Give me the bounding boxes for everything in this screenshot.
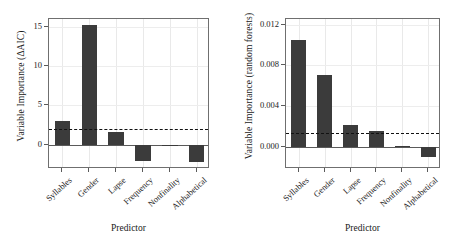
x-tick-mark — [375, 168, 376, 172]
x-tick-mark — [169, 168, 170, 172]
x-axis-title-left: Predictor — [48, 223, 209, 233]
bar-gender — [82, 25, 98, 145]
bar-lapse — [343, 125, 358, 146]
panel-right-random-forests: Variable Importance (random forests) 0.0… — [228, 0, 456, 245]
y-tick-mark — [44, 65, 48, 66]
y-tick-label: 15 — [28, 21, 42, 31]
y-tick-mark — [44, 144, 48, 145]
x-tick-mark — [324, 168, 325, 172]
gridline-vertical — [428, 19, 429, 167]
y-tick-label: 0.004 — [251, 100, 279, 110]
y-tick-mark — [281, 64, 285, 65]
y-tick-mark — [44, 26, 48, 27]
y-tick-label: 5 — [28, 99, 42, 109]
x-tick-mark — [401, 168, 402, 172]
bar-syllables — [55, 121, 71, 145]
threshold-line — [286, 133, 439, 134]
y-tick-mark — [281, 24, 285, 25]
gridline-horizontal — [49, 105, 208, 106]
x-tick-mark — [115, 168, 116, 172]
x-tick-mark — [427, 168, 428, 172]
zero-baseline — [286, 147, 439, 148]
bar-alphabetical — [189, 145, 205, 162]
bar-frequency — [135, 145, 151, 162]
y-axis-title-left: Variable Importance (ΔAIC) — [14, 0, 28, 174]
x-tick-mark — [88, 168, 89, 172]
plot-area-left — [48, 18, 209, 168]
x-tick-mark — [61, 168, 62, 172]
y-tick-label: 0.008 — [251, 59, 279, 69]
bar-syllables — [291, 40, 306, 147]
x-tick-mark — [142, 168, 143, 172]
bar-alphabetical — [421, 147, 436, 157]
y-tick-label: 10 — [28, 60, 42, 70]
gridline-horizontal — [286, 106, 439, 107]
y-tick-mark — [44, 104, 48, 105]
y-tick-label: 0.000 — [251, 141, 279, 151]
x-tick-mark — [196, 168, 197, 172]
y-tick-label: 0 — [28, 139, 42, 149]
y-tick-mark — [281, 105, 285, 106]
zero-baseline — [49, 145, 208, 146]
x-tick-mark — [350, 168, 351, 172]
gridline-horizontal — [286, 65, 439, 66]
threshold-line — [49, 129, 208, 130]
gridline-horizontal — [49, 27, 208, 28]
plot-area-right — [285, 18, 440, 168]
panel-left-delta-aic: Variable Importance (ΔAIC) 051015Syllabl… — [0, 0, 228, 245]
bar-gender — [317, 75, 332, 146]
y-tick-label: 0.012 — [251, 19, 279, 29]
x-tick-mark — [298, 168, 299, 172]
bar-lapse — [108, 132, 124, 145]
bar-nonfinality — [162, 145, 178, 146]
figure-panels: Variable Importance (ΔAIC) 051015Syllabl… — [0, 0, 456, 245]
y-tick-mark — [281, 146, 285, 147]
bar-nonfinality — [395, 146, 410, 147]
gridline-horizontal — [49, 66, 208, 67]
gridline-horizontal — [286, 25, 439, 26]
x-axis-title-right: Predictor — [285, 223, 440, 233]
